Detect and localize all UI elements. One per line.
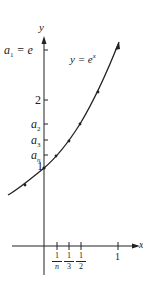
y-ticks bbox=[44, 50, 48, 155]
x-tick-label-1: 1 bbox=[115, 252, 120, 262]
function-label: y = ex bbox=[70, 53, 96, 65]
y-tick-label-a1: a1 = e bbox=[4, 44, 33, 59]
x-tick-label-1-over-2: 12 bbox=[76, 252, 86, 271]
y-tick-label-a2: a2 bbox=[31, 118, 41, 133]
x-tick-label-1-over-3: 13 bbox=[64, 252, 74, 271]
y-axis-label: y bbox=[39, 22, 44, 33]
y-tick-label-1: 1 bbox=[37, 160, 43, 172]
exponential-sequence-diagram: y x y = ex a1 = e 2 a2 a3 an 1 1n 13 12 … bbox=[0, 0, 143, 290]
x-tick-label-1-over-n: 1n bbox=[52, 252, 62, 271]
exponential-curve bbox=[8, 42, 119, 195]
curve-arrow-icon bbox=[115, 42, 120, 50]
x-axis-label: x bbox=[139, 240, 143, 250]
y-tick-label-2: 2 bbox=[35, 94, 41, 106]
y-axis-arrow-icon bbox=[42, 36, 47, 44]
